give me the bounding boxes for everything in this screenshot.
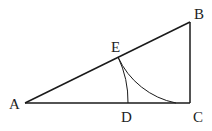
arc-centered-b — [118, 57, 176, 103]
label-e: E — [111, 39, 120, 55]
label-a: A — [9, 96, 20, 112]
label-d: D — [121, 109, 132, 125]
label-c: C — [193, 109, 203, 125]
geometry-diagram: A B C D E — [0, 0, 212, 131]
triangle-figure: A B C D E — [0, 0, 212, 131]
segment-ab — [25, 22, 190, 103]
label-b: B — [194, 6, 204, 22]
arc-centered-a — [118, 57, 128, 103]
